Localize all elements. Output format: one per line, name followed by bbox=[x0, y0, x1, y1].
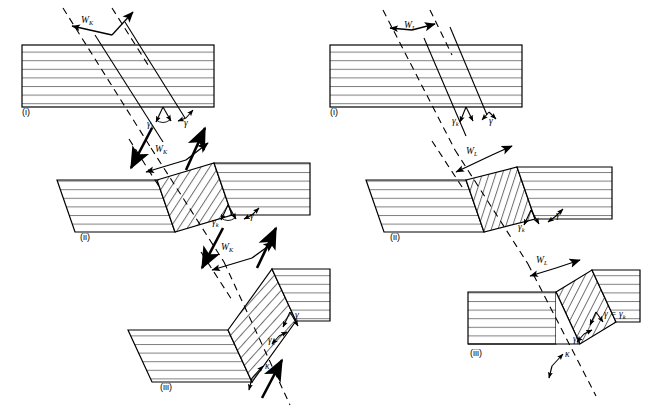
left-gamma-k-label-2: γk bbox=[212, 218, 219, 228]
left-panel-label-iii: (iii) bbox=[160, 382, 172, 392]
left-panel-label-i: (i) bbox=[22, 107, 30, 117]
left-gamma-k-label-3: γk bbox=[268, 336, 275, 346]
left-kappa-label: κ bbox=[265, 362, 270, 372]
left-sequence-graphics bbox=[22, 8, 330, 405]
left-panel-i-slab bbox=[22, 45, 214, 107]
left-width-label-3: WK bbox=[221, 243, 233, 253]
right-gamma-k-label-1: γk bbox=[452, 117, 459, 127]
left-width-label-1: WK bbox=[81, 16, 93, 26]
right-gamma-k-label-2: γk bbox=[518, 223, 525, 233]
right-panel-i-slab bbox=[330, 45, 522, 107]
right-gamma-label-1: γ bbox=[489, 117, 493, 127]
right-kappa-arrow bbox=[549, 354, 563, 378]
right-panel-label-i: (i) bbox=[330, 107, 338, 117]
kink-band-figure: WK γk γ (i) WK γk γ (ii) WK γ γk κ (iii)… bbox=[0, 0, 650, 419]
left-panel-label-ii: (ii) bbox=[80, 232, 90, 242]
right-gamma-equality-label: γ = γk bbox=[604, 310, 625, 320]
left-gamma-label-1: γ bbox=[184, 119, 188, 129]
left-gamma-k-label-1: γk bbox=[147, 120, 154, 130]
right-sequence-graphics bbox=[330, 10, 640, 396]
left-panel-ii bbox=[57, 163, 310, 232]
right-panel-iii bbox=[468, 270, 640, 344]
right-panel-label-ii: (ii) bbox=[390, 232, 400, 242]
right-width-arrow-2 bbox=[456, 146, 512, 172]
right-gamma-label-2: γ bbox=[556, 211, 560, 221]
diagram-canvas bbox=[0, 0, 650, 419]
left-width-label-2: WK bbox=[155, 145, 167, 155]
left-gamma-label-3: γ bbox=[295, 311, 299, 321]
right-panel-ii bbox=[366, 167, 612, 232]
left-panel-iii bbox=[128, 269, 330, 382]
right-gamma-k-label-3: γk bbox=[573, 335, 580, 345]
right-width-label-1: WL bbox=[404, 21, 415, 31]
right-panel-label-iii: (iii) bbox=[470, 348, 482, 358]
right-width-label-3: WL bbox=[536, 256, 547, 266]
right-kappa-label: κ bbox=[565, 350, 570, 360]
right-width-label-2: WL bbox=[466, 147, 477, 157]
left-gamma-label-2: γ bbox=[250, 212, 254, 222]
